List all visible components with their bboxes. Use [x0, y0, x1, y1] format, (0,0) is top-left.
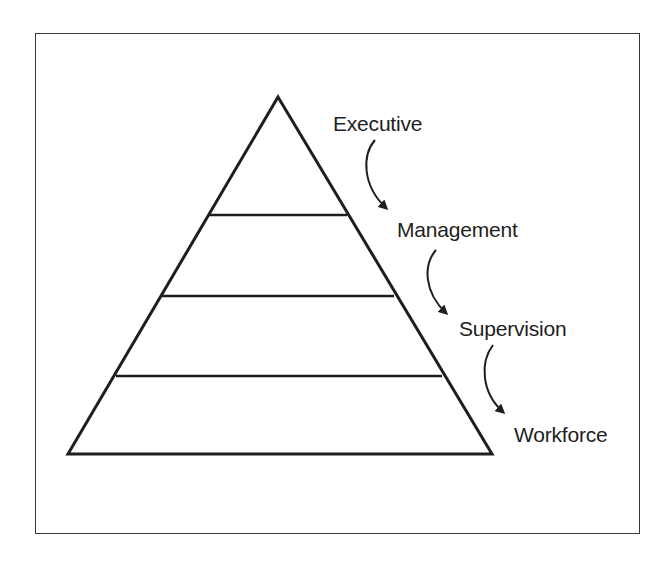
level-label-supervision: Supervision: [459, 318, 567, 339]
flow-arrow-supervision-to-workforce: [485, 345, 503, 412]
pyramid-diagram: [0, 0, 672, 566]
flow-arrow-management-to-supervision: [428, 250, 446, 313]
level-label-management: Management: [397, 219, 518, 240]
level-label-workforce: Workforce: [514, 424, 608, 445]
flow-arrow-executive-to-management: [366, 140, 386, 208]
level-label-executive: Executive: [333, 113, 422, 134]
